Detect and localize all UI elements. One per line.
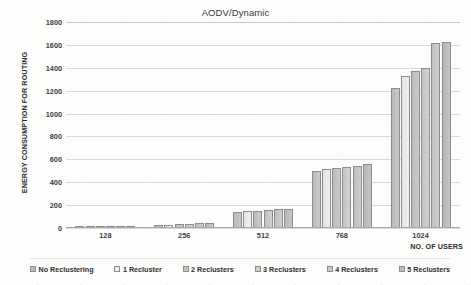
plot-area	[66, 22, 460, 228]
bar[interactable]	[431, 43, 440, 228]
legend-item-0[interactable]: No Reclustering	[30, 265, 94, 274]
legend-item-1[interactable]: 1 Recluster	[114, 265, 161, 274]
legend-label: 4 Reclusters	[335, 265, 378, 274]
bar[interactable]	[322, 169, 331, 228]
y-tick-200: 200	[22, 201, 62, 210]
bar[interactable]	[363, 164, 372, 228]
bar[interactable]	[421, 68, 430, 228]
x-axis-title: NO. OF USERS	[410, 242, 463, 251]
bar[interactable]	[411, 71, 420, 228]
legend-item-5[interactable]: 5 Reclusters	[399, 265, 450, 274]
bar[interactable]	[253, 211, 262, 228]
x-tick-1024: 1024	[412, 231, 428, 240]
y-tick-1400: 1400	[22, 63, 62, 72]
bar[interactable]	[243, 211, 252, 228]
bar-group-128	[66, 22, 145, 228]
legend-item-4[interactable]: 4 Reclusters	[327, 265, 378, 274]
bar[interactable]	[401, 76, 410, 228]
bar[interactable]	[332, 168, 341, 228]
legend-swatch-icon	[399, 266, 405, 272]
x-tick-512: 512	[257, 231, 269, 240]
y-tick-600: 600	[22, 155, 62, 164]
y-tick-1600: 1600	[22, 40, 62, 49]
x-tick-128: 128	[99, 231, 111, 240]
y-tick-800: 800	[22, 132, 62, 141]
y-tick-1200: 1200	[22, 86, 62, 95]
bar[interactable]	[391, 88, 400, 228]
y-tick-400: 400	[22, 178, 62, 187]
gridline-0	[66, 228, 460, 229]
legend-label: 2 Reclusters	[191, 265, 234, 274]
x-axis-tick-labels: 1282565127681024	[66, 231, 460, 245]
y-tick-0: 0	[22, 224, 62, 233]
y-tick-1000: 1000	[22, 109, 62, 118]
legend-swatch-icon	[183, 266, 189, 272]
x-tick-768: 768	[336, 231, 348, 240]
legend-swatch-icon	[30, 266, 36, 272]
y-axis-tick-labels: 020040060080010001200140016001800	[18, 22, 62, 228]
x-axis-line	[66, 227, 460, 228]
bar[interactable]	[274, 209, 283, 228]
chart-title: AODV/Dynamic	[0, 7, 471, 18]
bar[interactable]	[353, 166, 362, 228]
legend-label: 5 Reclusters	[407, 265, 450, 274]
bar[interactable]	[442, 42, 451, 228]
bar-group-1024	[381, 22, 460, 228]
y-tick-1800: 1800	[22, 18, 62, 27]
chart-page: AODV/Dynamic ENERGY CONSUMPTION FOR ROUT…	[0, 0, 471, 285]
bar[interactable]	[312, 171, 321, 228]
bar[interactable]	[342, 167, 351, 228]
chart-legend: No Reclustering1 Recluster2 Reclusters3 …	[30, 258, 450, 276]
bar-group-768	[302, 22, 381, 228]
bar[interactable]	[284, 209, 293, 228]
legend-swatch-icon	[255, 266, 261, 272]
legend-item-2[interactable]: 2 Reclusters	[183, 265, 234, 274]
legend-swatch-icon	[327, 266, 333, 272]
legend-label: 1 Recluster	[123, 265, 162, 274]
legend-item-3[interactable]: 3 Reclusters	[255, 265, 306, 274]
x-tick-256: 256	[178, 231, 190, 240]
bar-group-512	[224, 22, 303, 228]
legend-swatch-icon	[114, 266, 120, 272]
legend-label: 3 Reclusters	[263, 265, 306, 274]
legend-label: No Reclustering	[39, 265, 94, 274]
bar-group-256	[145, 22, 224, 228]
bar[interactable]	[233, 212, 242, 228]
bar[interactable]	[264, 210, 273, 228]
